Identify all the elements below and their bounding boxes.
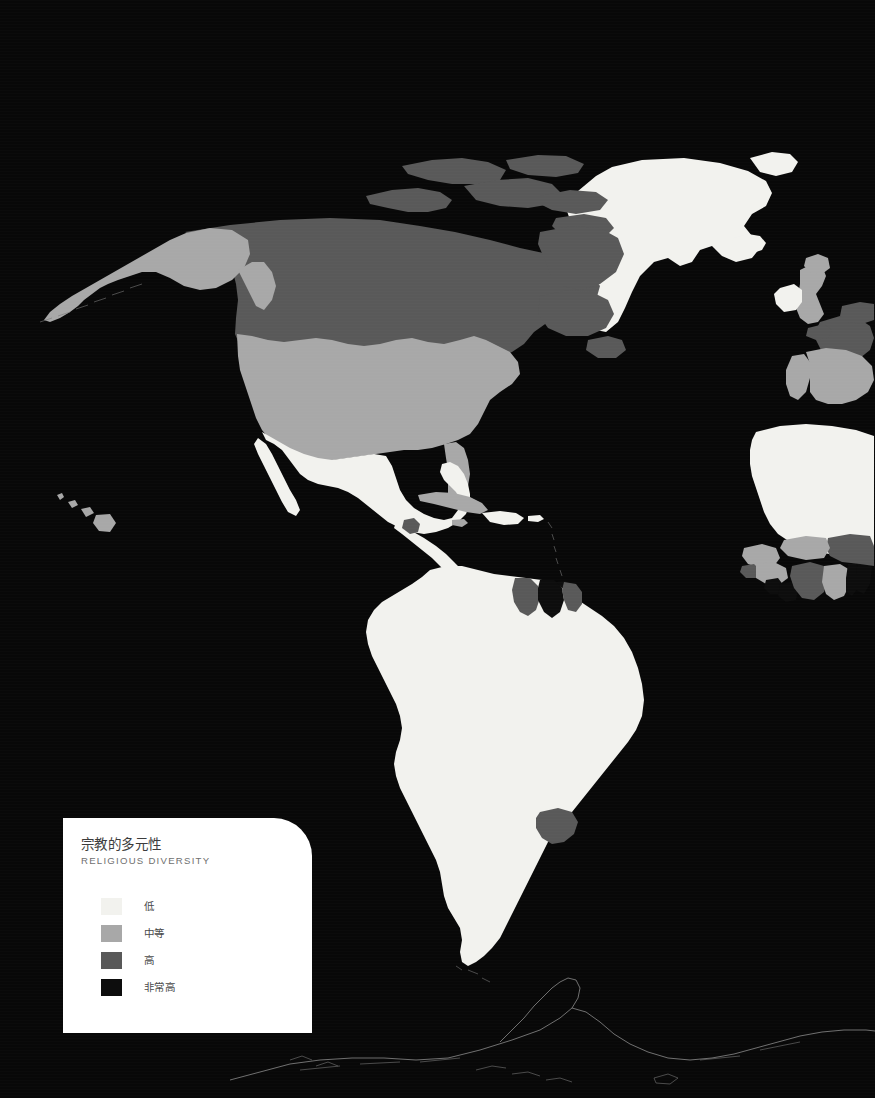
legend-label-medium: 中等	[144, 928, 165, 939]
legend-item-low[interactable]: 低	[81, 893, 292, 920]
legend-item-very-high[interactable]: 非常高	[81, 974, 292, 1001]
legend-swatch-low	[101, 898, 122, 915]
legend-title-cjk: 宗教的多元性	[81, 836, 292, 854]
legend-swatch-medium	[101, 925, 122, 942]
legend-items-list: 低 中等 高 非常高	[81, 893, 292, 1001]
legend-item-high[interactable]: 高	[81, 947, 292, 974]
legend-title-latin: RELIGIOUS DIVERSITY	[81, 855, 292, 866]
map-legend-panel[interactable]: 宗教的多元性 RELIGIOUS DIVERSITY 低 中等 高 非常高	[63, 818, 312, 1033]
legend-swatch-very-high	[101, 979, 122, 996]
legend-label-low: 低	[144, 901, 154, 912]
map-application: .lo { fill:#f2f2ee; } .md { fill:#a8a8a8…	[0, 0, 875, 1098]
legend-swatch-high	[101, 952, 122, 969]
legend-label-very-high: 非常高	[144, 982, 175, 993]
legend-label-high: 高	[144, 955, 154, 966]
legend-item-medium[interactable]: 中等	[81, 920, 292, 947]
